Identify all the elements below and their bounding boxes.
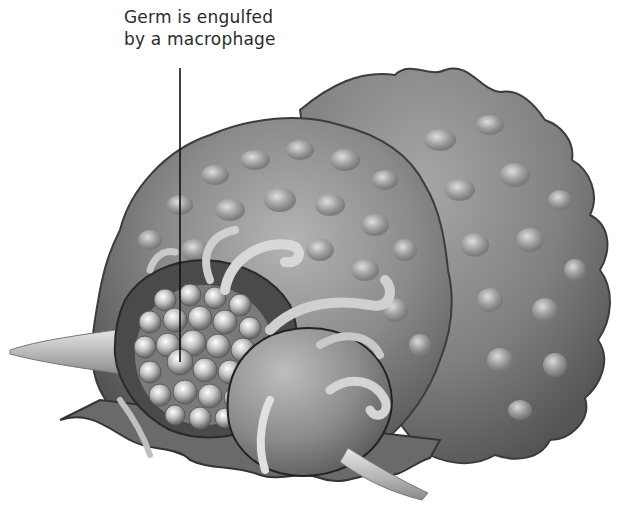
germ-engulfed-label: Germ is engulfed by a macrophage	[124, 6, 304, 50]
macrophage-drawing	[0, 0, 621, 526]
label-line-2: by a macrophage	[124, 28, 304, 50]
left-spike	[10, 328, 130, 375]
pseudopod-lobe	[228, 328, 392, 476]
label-line-1: Germ is engulfed	[124, 6, 304, 28]
macrophage-illustration: Germ is engulfed by a macrophage	[0, 0, 621, 526]
